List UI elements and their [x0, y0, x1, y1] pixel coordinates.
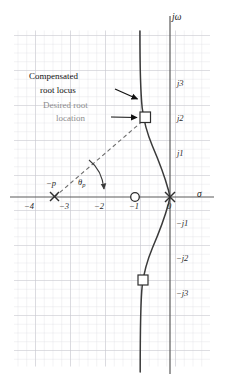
desired-root-arrow — [111, 117, 137, 118]
y-tick-j2: j2 — [177, 114, 184, 123]
imag-axis-label: jω — [172, 13, 181, 23]
annotation-desired-line2: location — [56, 114, 85, 123]
marker-desired-root-upper — [140, 112, 151, 123]
real-axis-label: σ — [197, 190, 202, 200]
x-tick-minus1: −1 — [129, 202, 139, 211]
annotation-compensated-line2: root locus — [40, 86, 76, 95]
marker-zero-minus-one — [131, 193, 140, 202]
angle-theta-label: θp — [78, 178, 85, 188]
y-tick-minus-j3: −j3 — [176, 289, 188, 298]
compensator-pole-label: −p — [46, 179, 56, 188]
marker-desired-root-lower — [138, 275, 148, 285]
y-tick-minus-j2: −j2 — [176, 254, 188, 263]
y-tick-j1: j1 — [177, 149, 184, 158]
annotation-desired-line1: Desired root — [43, 101, 88, 110]
annotation-compensated-line1: Compensated — [29, 72, 78, 81]
root-locus-figure — [0, 0, 229, 380]
y-tick-j3: j3 — [177, 79, 184, 88]
x-tick-minus3: −3 — [59, 202, 69, 211]
y-tick-minus-j1: −j1 — [176, 219, 188, 228]
x-tick-zero: 0 — [167, 202, 171, 211]
x-tick-minus4: −4 — [24, 202, 34, 211]
angle-theta-sub: p — [82, 181, 85, 188]
x-tick-minus2: −2 — [94, 202, 104, 211]
